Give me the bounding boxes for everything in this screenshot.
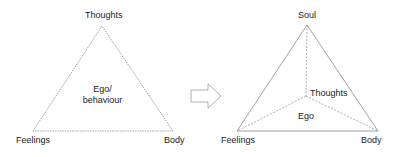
diagram-canvas: [0, 0, 396, 157]
right-inner-label: Thoughts: [310, 89, 348, 98]
left-left-label: Feelings: [16, 136, 50, 145]
left-center-line1: Ego/: [80, 84, 125, 95]
right-arrow-icon: [191, 84, 221, 108]
right-right-label: Body: [361, 136, 382, 145]
left-triangle: [33, 26, 173, 131]
right-center-label: Ego: [298, 112, 314, 121]
left-right-label: Body: [164, 136, 185, 145]
left-top-label: Thoughts: [85, 11, 123, 20]
right-left-label: Feelings: [221, 136, 255, 145]
left-center-label: Ego/ behaviour: [80, 84, 125, 106]
right-top-label: Soul: [298, 11, 316, 20]
left-center-line2: behaviour: [80, 95, 125, 106]
